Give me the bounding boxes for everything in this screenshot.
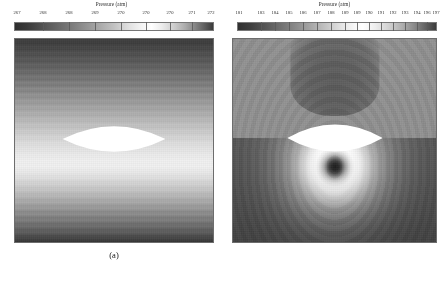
colorbar-tick-label: 194 [414, 9, 421, 17]
panel-b: Pressure (atm) 181 183 184 185 186 187 1… [223, 0, 446, 282]
colorbar-tick-label: 272 [208, 9, 215, 17]
colorbar-tick-label: 181 [236, 9, 243, 17]
colorbar-ticklabels-a: 267 268 268 269 270 270 270 271 272 [14, 9, 214, 17]
panel-caption-a: (a) [84, 250, 144, 260]
lens-shape-icon [287, 121, 382, 156]
colorbar-tick-label: 268 [40, 9, 47, 17]
colorbar-title-b: Pressure (atm) [223, 0, 446, 9]
colorbar-tick-label: 270 [167, 9, 174, 17]
colorbar-tick-label: 192 [390, 9, 397, 17]
colorbar-ticklabels-b: 181 183 184 185 186 187 188 189 189 190 … [237, 9, 437, 17]
colorbar-tick-label: 186 [300, 9, 307, 17]
colorbar-tick-label: 184 [272, 9, 279, 17]
heatmap-plot-b [232, 38, 437, 243]
colorbar-tick-label: 187 [314, 9, 321, 17]
colorbar-b [237, 18, 437, 31]
colorbar-tick-label: 270 [143, 9, 150, 17]
colorbar-tick-label: 191 [378, 9, 385, 17]
panel-a: Pressure (atm) 267 268 268 269 270 270 2… [0, 0, 223, 282]
figure-root: Pressure (atm) 267 268 268 269 270 270 2… [0, 0, 446, 282]
heatmap-plot-a [14, 38, 214, 243]
colorbar-tick-label: 196 [424, 9, 431, 17]
colorbar-tick-label: 188 [328, 9, 335, 17]
colorbar-a [14, 18, 214, 31]
colorbar-tick-label: 183 [258, 9, 265, 17]
lens-shape-icon [63, 123, 166, 155]
colorbar-tick-label: 197 [433, 9, 440, 17]
colorbar-tick-label: 267 [14, 9, 21, 17]
lens-inclusion-b [287, 121, 382, 156]
colorbar-tick-label: 270 [118, 9, 125, 17]
colorbar-ticks-b [237, 22, 437, 31]
colorbar-ticks-a [14, 22, 214, 31]
colorbar-tick-label: 185 [286, 9, 293, 17]
lens-inclusion-a [63, 123, 166, 155]
colorbar-tick-label: 193 [402, 9, 409, 17]
colorbar-tick-label: 268 [66, 9, 73, 17]
colorbar-tick-label: 189 [342, 9, 349, 17]
colorbar-tick-label: 189 [354, 9, 361, 17]
colorbar-title-a: Pressure (atm) [0, 0, 223, 9]
colorbar-tick-label: 271 [189, 9, 196, 17]
colorbar-tick-label: 269 [92, 9, 99, 17]
colorbar-tick-label: 190 [366, 9, 373, 17]
